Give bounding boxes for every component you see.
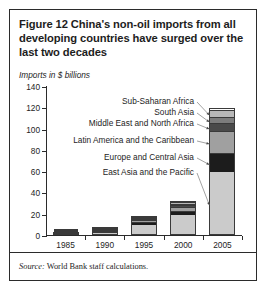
bar-segment: [210, 110, 234, 117]
y-axis-tick-label: 20: [31, 210, 40, 220]
x-axis-tick: [203, 236, 204, 240]
x-axis-tick: [124, 236, 125, 240]
x-axis-tick-label: 1990: [96, 240, 114, 250]
bar-segment: [54, 233, 78, 234]
x-axis-tick-label: 1995: [135, 240, 153, 250]
axis-units-subtitle: Imports in $ billions: [19, 70, 90, 80]
x-axis-tick: [85, 236, 86, 240]
bar-segment: [210, 123, 234, 130]
y-axis-tick-label: 40: [31, 188, 40, 198]
x-axis-tick: [164, 236, 165, 240]
bar-1995: [131, 216, 157, 235]
x-axis-tick-label: 2005: [213, 240, 231, 250]
y-axis-tick-label: 0: [35, 231, 40, 241]
y-axis-tick: [42, 130, 46, 131]
bar-segment: [210, 172, 234, 234]
figure-container: Figure 12 China's non-oil imports from a…: [0, 0, 268, 293]
bar-2005: [209, 108, 235, 235]
bar-segment: [210, 131, 234, 153]
bar-2000: [170, 201, 196, 235]
y-axis-tick: [42, 193, 46, 194]
y-axis-tick: [42, 87, 46, 88]
bar-1985: [53, 232, 79, 235]
y-axis-tick: [42, 215, 46, 216]
callout-label-middle-east-and-north-africa: Middle East and North Africa: [0, 118, 194, 128]
bar-segment: [210, 153, 234, 172]
y-axis-tick-label: 140: [26, 82, 40, 92]
x-axis-tick-label: 2000: [174, 240, 192, 250]
bar-segment: [93, 233, 117, 234]
source-divider: [10, 252, 256, 253]
source-note: Source: World Bank staff calculations.: [19, 262, 148, 271]
bar-1990: [92, 227, 118, 235]
callout-label-east-asia-and-the-pacific: East Asia and the Pacific: [0, 167, 194, 177]
callout-label-south-asia: South Asia: [0, 107, 194, 117]
bar-segment: [171, 215, 195, 234]
y-axis-tick: [42, 236, 46, 237]
figure-title: Figure 12 China's non-oil imports from a…: [19, 17, 249, 60]
x-axis-tick-label: 1985: [56, 240, 74, 250]
callout-label-latin-america-and-the-caribbean: Latin America and the Caribbean: [0, 135, 194, 145]
bar-segment: [132, 225, 156, 234]
callout-label-europe-and-central-asia: Europe and Central Asia: [0, 152, 194, 162]
x-axis-tick: [242, 236, 243, 240]
callout-label-sub-saharan-africa: Sub-Saharan Africa: [0, 96, 194, 106]
source-label: Source:: [19, 262, 45, 271]
source-text: World Bank staff calculations.: [45, 262, 148, 271]
